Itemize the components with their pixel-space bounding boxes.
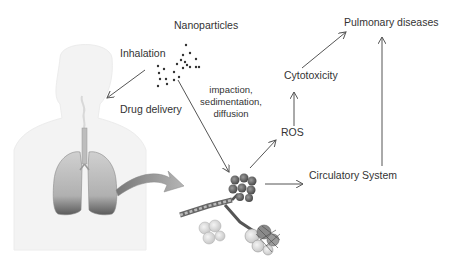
label-drug-delivery: Drug delivery bbox=[120, 104, 182, 115]
label-impaction: impaction, bbox=[188, 84, 274, 96]
label-ros: ROS bbox=[281, 127, 304, 138]
label-inhalation: Inhalation bbox=[120, 48, 166, 59]
arrow-inhalation bbox=[107, 70, 145, 98]
diagram-canvas bbox=[0, 0, 452, 268]
arrow-cytotoxicity-to-pulmonary bbox=[302, 32, 346, 68]
label-nanoparticles: Nanoparticles bbox=[174, 20, 238, 31]
label-sedimentation: sedimentation, bbox=[188, 96, 274, 108]
arrow-alveoli-to-ros bbox=[250, 140, 276, 168]
label-diffusion: diffusion bbox=[188, 108, 274, 120]
label-deposition-mechanisms: impaction, sedimentation, diffusion bbox=[188, 84, 274, 120]
label-circulatory-system: Circulatory System bbox=[309, 170, 397, 181]
trachea bbox=[82, 128, 87, 164]
human-body-illustration bbox=[14, 45, 146, 251]
label-pulmonary-diseases: Pulmonary diseases bbox=[344, 17, 439, 28]
label-cytotoxicity: Cytotoxicity bbox=[284, 70, 338, 81]
alveoli-illustration bbox=[180, 174, 280, 256]
